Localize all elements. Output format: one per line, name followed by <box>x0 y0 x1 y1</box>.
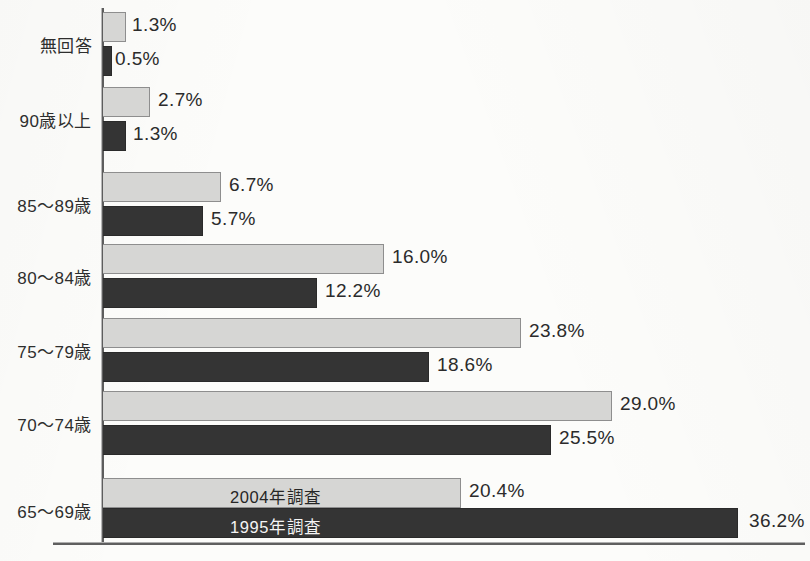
value-label-1995: 5.7% <box>211 208 256 230</box>
bar-1995[interactable] <box>103 121 126 151</box>
bar-2004[interactable] <box>103 391 612 421</box>
value-label-2004: 16.0% <box>392 246 448 268</box>
value-label-1995: 25.5% <box>559 427 615 449</box>
value-label-1995: 36.2% <box>749 510 805 532</box>
value-label-1995: 0.5% <box>115 48 160 70</box>
bar-1995[interactable] <box>103 46 112 76</box>
category-label: 75〜79歳 <box>0 338 92 363</box>
legend-item-2004: 2004年調査 <box>230 484 322 508</box>
legend-item-1995: 1995年調査 <box>230 514 322 538</box>
value-label-2004: 6.7% <box>229 174 274 196</box>
x-axis-line <box>53 542 805 545</box>
category-label: 70〜74歳 <box>0 411 92 436</box>
bar-2004[interactable] <box>103 244 384 274</box>
bar-1995[interactable] <box>103 352 429 382</box>
bar-1995[interactable] <box>103 425 551 455</box>
bar-2004[interactable] <box>103 318 521 348</box>
grouped-bar-chart: 無回答 1.3% 0.5% 90歳以上 2.7% 1.3% 85〜89歳 6.7… <box>0 0 810 561</box>
value-label-2004: 2.7% <box>158 89 203 111</box>
value-label-1995: 12.2% <box>325 280 381 302</box>
bar-1995[interactable] <box>103 206 203 236</box>
value-label-2004: 23.8% <box>529 320 585 342</box>
category-label: 80〜84歳 <box>0 264 92 289</box>
value-label-1995: 1.3% <box>133 123 178 145</box>
bar-2004[interactable] <box>103 12 126 42</box>
bar-2004[interactable] <box>103 87 150 117</box>
category-label: 85〜89歳 <box>0 192 92 217</box>
value-label-1995: 18.6% <box>437 354 493 376</box>
category-label: 90歳以上 <box>0 107 92 132</box>
category-label: 無回答 <box>0 32 92 57</box>
value-label-2004: 1.3% <box>132 14 177 36</box>
bar-1995[interactable] <box>103 278 317 308</box>
value-label-2004: 29.0% <box>620 393 676 415</box>
bar-2004[interactable] <box>103 172 221 202</box>
value-label-2004: 20.4% <box>469 480 525 502</box>
category-label: 65〜69歳 <box>0 498 92 523</box>
bar-1995[interactable] <box>103 508 738 538</box>
